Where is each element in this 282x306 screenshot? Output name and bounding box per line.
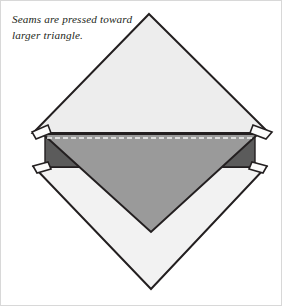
figure-caption: Seams are pressed toward larger triangle… [12, 12, 162, 43]
quilt-diagram [1, 1, 282, 306]
seam-pressing-figure: Seams are pressed toward larger triangle… [0, 0, 282, 306]
